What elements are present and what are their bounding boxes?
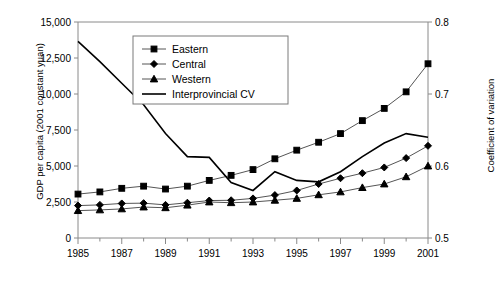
data-point-marker [403,89,409,95]
y-axis-left-tick-label: 5,000 [46,161,71,172]
x-axis-tick-label: 1989 [154,248,177,259]
data-point-marker [425,61,431,67]
y-axis-left-tick-label: 10,000 [40,89,71,100]
data-point-marker [97,189,103,195]
data-point-marker [359,170,366,177]
y-axis-left-tick-label: 7,500 [46,125,71,136]
x-axis-ticks: 198519871989199119931995199719992001 [67,238,440,259]
x-axis-tick-label: 1987 [111,248,134,259]
data-point-marker [402,173,409,180]
data-point-marker [403,155,410,162]
legend-label: Western [172,73,211,85]
data-point-marker [381,164,388,171]
legend-label: Eastern [172,43,208,55]
x-axis-tick-label: 1985 [67,248,90,259]
plot-area: 02,5005,0007,50010,00012,50015,000 0.50.… [0,0,500,294]
y-axis-left-ticks: 02,5005,0007,50010,00012,50015,000 [40,17,78,244]
y-axis-right-tick-label: 0.7 [435,89,449,100]
data-point-marker [359,118,365,124]
y-axis-left-tick-label: 12,500 [40,53,71,64]
y-axis-right-tick-label: 0.6 [435,161,449,172]
x-axis-tick-label: 2001 [417,248,440,259]
legend-label: Interprovincial CV [172,88,255,100]
y-axis-right-ticks: 0.50.60.70.8 [428,17,449,244]
y-axis-left-tick-label: 0 [65,233,71,244]
data-point-marker [75,191,81,197]
data-point-marker [163,186,169,192]
chart-legend: EasternCentralWesternInterprovincial CV [133,36,288,104]
x-axis-tick-label: 1995 [286,248,309,259]
data-point-marker [316,139,322,145]
x-axis-tick-label: 1993 [242,248,265,259]
data-point-marker [141,183,147,189]
y-axis-right-tick-label: 0.5 [435,233,449,244]
chart-figure: GDP per capita (2001 constant yuan) Coef… [0,0,500,294]
x-axis-tick-label: 1997 [329,248,352,259]
data-point-marker [294,147,300,153]
x-axis-tick-label: 1991 [198,248,221,259]
x-axis-tick-label: 1999 [373,248,396,259]
data-point-marker [337,175,344,182]
data-point-marker [272,156,278,162]
data-point-marker [151,46,157,52]
data-point-marker [119,185,125,191]
data-point-marker [338,131,344,137]
data-point-marker [250,167,256,173]
data-point-marker [184,183,190,189]
y-axis-right-tick-label: 0.8 [435,17,449,28]
data-point-marker [206,178,212,184]
data-point-marker [381,106,387,112]
legend-label: Central [172,58,206,70]
data-point-marker [293,187,300,194]
y-axis-left-tick-label: 2,500 [46,197,71,208]
y-axis-left-tick-label: 15,000 [40,17,71,28]
data-point-marker [425,142,432,149]
data-point-marker [228,172,234,178]
